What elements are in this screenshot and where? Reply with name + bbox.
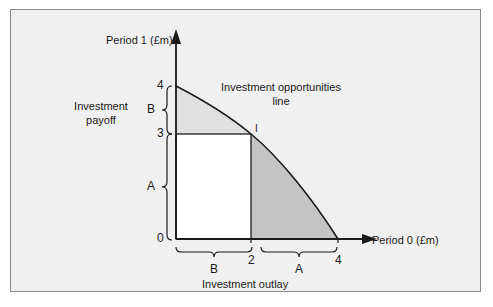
investment-payoff-line1: Investment <box>74 100 128 112</box>
y-tick-label-4: 4 <box>157 79 164 92</box>
x-brace-left-label: B <box>210 263 218 276</box>
outlay-right-shaded-region <box>251 134 338 239</box>
x-axis-label: Period 0 (£m) <box>372 234 439 247</box>
x-tick-label-2: 2 <box>248 254 255 267</box>
investment-payoff-label: Investment payoff <box>59 99 143 127</box>
y-brace-lower <box>162 134 172 240</box>
y-axis-label: Period 1 (£m) <box>106 34 173 47</box>
curve-label-line1: Investment opportunities <box>221 81 341 93</box>
investment-outlay-rectangle <box>176 134 251 239</box>
y-tick-label-3: 3 <box>157 127 164 140</box>
investment-outlay-label: Investment outlay <box>202 278 288 291</box>
origin-label: 0 <box>157 232 164 245</box>
investment-opportunities-chart <box>11 10 480 291</box>
y-brace-lower-label: A <box>147 180 155 193</box>
x-tick-label-4: 4 <box>335 254 342 267</box>
y-brace-upper-label: B <box>147 103 155 116</box>
curve-label-line2: line <box>272 95 289 107</box>
x-brace-right <box>261 247 337 257</box>
x-brace-left <box>176 247 252 257</box>
x-brace-right-label: A <box>295 263 303 276</box>
point-I-label: I <box>255 122 258 135</box>
investment-opportunities-line-label: Investment opportunities line <box>207 80 355 108</box>
figure-frame: Period 1 (£m) Period 0 (£m) 4 3 0 2 4 B … <box>10 9 481 292</box>
investment-payoff-line2: payoff <box>86 114 116 126</box>
